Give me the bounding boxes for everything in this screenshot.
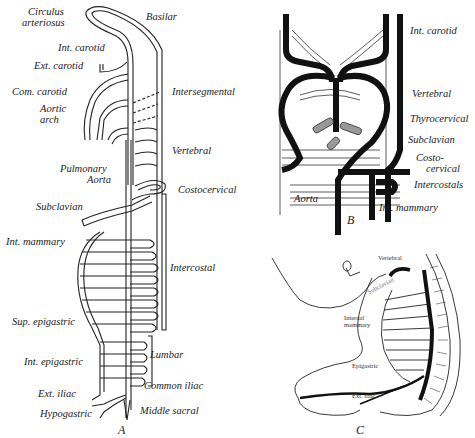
label-int-mammary: Int. mammary [6, 236, 65, 247]
label-int-carotid: Int. carotid [58, 42, 105, 53]
label-b-aorta: Aorta [294, 193, 318, 204]
label-int-epigastric: Int. epigastric [24, 356, 83, 367]
panel-letter-c: C [356, 423, 364, 438]
label-hypogastric: Hypogastric [40, 408, 92, 419]
label-c-internal-mammary-2: mammary [344, 321, 370, 328]
label-basilar: Basilar [146, 11, 177, 22]
label-c-ext-iliac: Ext. iliac [352, 392, 375, 399]
label-b-subclavian: Subclavian [408, 134, 455, 145]
label-intercostal: Intercostal [170, 262, 215, 273]
label-aortic-arch-2: arch [40, 114, 59, 125]
label-b-int-carotid: Int. carotid [410, 25, 457, 36]
label-costocervical: Costocervical [178, 184, 236, 195]
label-b-int-mammary: Int. mammary [379, 202, 438, 213]
label-c-vertebral: Vertebral [378, 254, 402, 261]
label-ext-iliac: Ext. iliac [38, 388, 76, 399]
panel-letter-b: B [347, 213, 354, 228]
label-b-intercostals: Intercostals [414, 179, 463, 190]
label-pulmonary: Pulmonary [60, 163, 107, 174]
label-b-costocervical-1: Costo- [416, 152, 444, 163]
label-b-costocervical-2: cervical [426, 163, 460, 174]
label-com-carotid: Com. carotid [12, 86, 67, 97]
label-b-vertebral: Vertebral [412, 88, 451, 99]
label-common-iliac: Common iliac [144, 380, 203, 391]
label-c-epigastric: Epigastric [352, 362, 378, 369]
panel-letter-a: A [118, 423, 125, 438]
label-aorta: Aorta [87, 174, 111, 185]
label-ext-carotid: Ext. carotid [34, 60, 83, 71]
label-c-internal-mammary-1: Internal [344, 314, 364, 321]
label-subclavian: Subclavian [36, 201, 83, 212]
label-middle-sacral: Middle sacral [140, 405, 199, 416]
label-b-thyrocervical: Thyrocervical [410, 113, 469, 124]
label-circulus-arteriosus-2: arteriosus [22, 17, 65, 28]
label-sup-epigastric: Sup. epigastric [12, 316, 75, 327]
label-lumbar: Lumbar [150, 349, 183, 360]
label-circulus-arteriosus-1: Circulus [28, 6, 64, 17]
label-vertebral: Vertebral [172, 145, 211, 156]
label-aortic-arch-1: Aortic [40, 103, 66, 114]
label-intersegmental: Intersegmental [172, 86, 235, 97]
